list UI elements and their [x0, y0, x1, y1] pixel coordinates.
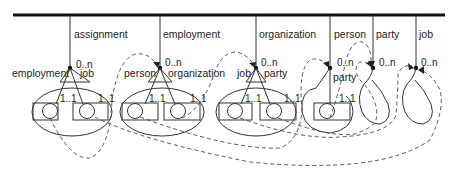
svg-text:1..1: 1..1 — [149, 93, 166, 104]
role-label-job: job — [79, 67, 94, 79]
svg-text:1..1: 1..1 — [245, 93, 262, 104]
role-label-party: party — [264, 67, 288, 79]
column-label-employment: employment — [163, 28, 220, 40]
column-label-party: party — [376, 28, 400, 40]
svg-text:1..1: 1..1 — [284, 93, 301, 104]
role-label-employment: employment — [12, 67, 69, 79]
svg-text:1..1: 1..1 — [190, 93, 207, 104]
role-label-organization: organization — [168, 67, 225, 79]
role-label-person: person — [124, 67, 156, 79]
column-employment: employment 0..n person organization 1..1… — [120, 15, 225, 136]
column-label-assignment: assignment — [74, 28, 128, 40]
svg-text:1..1: 1..1 — [60, 93, 77, 104]
schema-diagram: assignment 0..n employment job 1..1 1..1… — [0, 0, 457, 177]
column-label-organization: organization — [259, 28, 316, 40]
column-label-job: job — [418, 28, 433, 40]
svg-text:1..1: 1..1 — [339, 93, 356, 104]
svg-text:0..n: 0..n — [379, 57, 396, 68]
column-label-person: person — [334, 28, 366, 40]
role-label-party: party — [333, 71, 357, 83]
